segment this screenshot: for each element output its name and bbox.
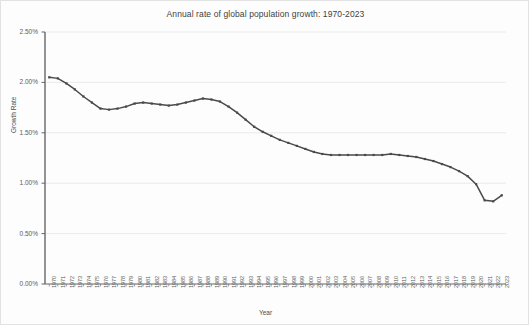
x-axis-tick-label: 2009 xyxy=(384,276,390,288)
x-axis-tick-label: 1993 xyxy=(248,276,254,288)
growth-rate-line xyxy=(49,77,501,201)
data-point-marker xyxy=(253,126,255,128)
data-point-marker xyxy=(108,109,110,111)
data-point-marker xyxy=(270,135,272,137)
chart-figure: Annual rate of global population growth:… xyxy=(0,0,529,325)
data-point-marker xyxy=(193,99,195,101)
x-axis-tick-label: 1987 xyxy=(197,276,203,288)
data-point-marker xyxy=(176,103,178,105)
data-point-marker xyxy=(390,153,392,155)
data-point-marker xyxy=(407,155,409,157)
data-point-marker xyxy=(279,139,281,141)
data-point-marker xyxy=(313,151,315,153)
data-point-marker xyxy=(296,145,298,147)
data-point-marker xyxy=(236,112,238,114)
y-axis-title: Growth Rate xyxy=(10,97,17,134)
data-point-marker xyxy=(424,158,426,160)
x-axis-tick-label: 1986 xyxy=(188,276,194,288)
data-point-marker xyxy=(125,105,127,107)
x-axis-tick-label: 1985 xyxy=(180,276,186,288)
data-point-marker xyxy=(245,119,247,121)
data-point-marker xyxy=(492,200,494,202)
x-axis-tick-label: 1981 xyxy=(145,276,151,288)
data-point-marker xyxy=(398,154,400,156)
data-point-marker xyxy=(364,154,366,156)
x-axis-tick-label: 1991 xyxy=(231,276,237,288)
x-axis-tick-label: 2003 xyxy=(333,276,339,288)
x-axis-tick-label: 2000 xyxy=(308,276,314,288)
x-axis-tick-label: 1984 xyxy=(171,276,177,288)
data-point-marker xyxy=(449,166,451,168)
plot-area: 0.00%0.50%1.00%1.50%2.00%2.50% 197019711… xyxy=(1,1,529,325)
x-axis-tick-label: 2015 xyxy=(436,276,442,288)
data-point-marker xyxy=(304,148,306,150)
x-axis-tick-label: 2001 xyxy=(316,276,322,288)
x-axis-tick-label: 2005 xyxy=(350,276,356,288)
x-axis-tick-label: 2018 xyxy=(461,276,467,288)
data-point-marker xyxy=(415,156,417,158)
data-point-marker xyxy=(287,142,289,144)
x-axis-tick-label: 2007 xyxy=(367,276,373,288)
x-axis-tick-label: 1989 xyxy=(214,276,220,288)
data-point-marker xyxy=(338,154,340,156)
x-axis-tick-label: 1980 xyxy=(137,276,143,288)
data-point-marker xyxy=(48,76,50,78)
x-axis-tick-label: 1972 xyxy=(69,276,75,288)
x-axis-tick-label: 1975 xyxy=(94,276,100,288)
x-axis-tick-label: 2021 xyxy=(487,276,493,288)
x-axis-tick-label: 1995 xyxy=(265,276,271,288)
axis-lines xyxy=(45,32,506,284)
x-axis-tick-label: 2011 xyxy=(401,276,407,288)
x-axis-tick-label: 1978 xyxy=(120,276,126,288)
data-point-marker xyxy=(227,105,229,107)
x-axis-tick-label: 1997 xyxy=(282,276,288,288)
data-point-marker xyxy=(168,104,170,106)
x-axis-tick-label: 2014 xyxy=(427,276,433,288)
x-axis-tick-label: 2019 xyxy=(470,276,476,288)
x-axis-title: Year xyxy=(1,309,529,316)
data-point-marker xyxy=(330,154,332,156)
x-axis-tick-label: 1982 xyxy=(154,276,160,288)
x-axis-tick-label: 1973 xyxy=(77,276,83,288)
data-point-marker xyxy=(219,100,221,102)
x-axis-tick-label: 2004 xyxy=(342,276,348,288)
data-point-marker xyxy=(484,199,486,201)
gridlines xyxy=(45,32,506,234)
data-point-marker xyxy=(501,194,503,196)
y-axis-tick-label: 2.00% xyxy=(4,78,38,85)
data-point-marker xyxy=(441,163,443,165)
data-point-marker xyxy=(91,101,93,103)
data-point-marker xyxy=(82,95,84,97)
data-point-marker xyxy=(373,154,375,156)
x-axis-tick-label: 2010 xyxy=(393,276,399,288)
y-axis-tick-label: 1.00% xyxy=(4,179,38,186)
data-point-marker xyxy=(57,77,59,79)
x-axis-tick-label: 1970 xyxy=(51,276,57,288)
y-axis-tick-label: 2.50% xyxy=(4,28,38,35)
data-point-marker xyxy=(432,160,434,162)
x-axis-tick-label: 2022 xyxy=(495,276,501,288)
x-axis-tick-label: 2017 xyxy=(453,276,459,288)
data-point-marker xyxy=(466,175,468,177)
x-axis-tick-label: 2013 xyxy=(419,276,425,288)
x-axis-tick-label: 1979 xyxy=(128,276,134,288)
x-axis-tick-label: 1992 xyxy=(239,276,245,288)
y-axis-tick-label: 0.50% xyxy=(4,230,38,237)
data-point-marker xyxy=(159,103,161,105)
data-point-marker xyxy=(74,88,76,90)
data-point-marker xyxy=(381,154,383,156)
data-point-marker xyxy=(185,101,187,103)
x-axis-tick-label: 2012 xyxy=(410,276,416,288)
x-axis-tick-label: 1999 xyxy=(299,276,305,288)
y-axis-tick-label: 0.00% xyxy=(4,280,38,287)
x-axis-tick-label: 2016 xyxy=(444,276,450,288)
x-axis-tick-label: 2002 xyxy=(325,276,331,288)
x-axis-tick-label: 1998 xyxy=(291,276,297,288)
data-point-marker xyxy=(321,153,323,155)
x-axis-tick-label: 1971 xyxy=(60,276,66,288)
data-point-marker xyxy=(458,170,460,172)
x-axis-tick-label: 2006 xyxy=(359,276,365,288)
x-axis-tick-label: 1977 xyxy=(111,276,117,288)
x-axis-tick-label: 1983 xyxy=(162,276,168,288)
data-point-marker xyxy=(116,108,118,110)
